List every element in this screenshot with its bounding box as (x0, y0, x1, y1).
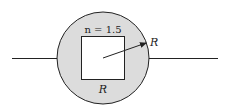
index-label: n = 1.5 (84, 24, 121, 35)
diagram-canvas: n = 1.5 R R (0, 0, 227, 111)
radius-label: R (149, 36, 158, 49)
side-label: R (98, 83, 107, 96)
diagram: n = 1.5 R R (0, 0, 227, 111)
